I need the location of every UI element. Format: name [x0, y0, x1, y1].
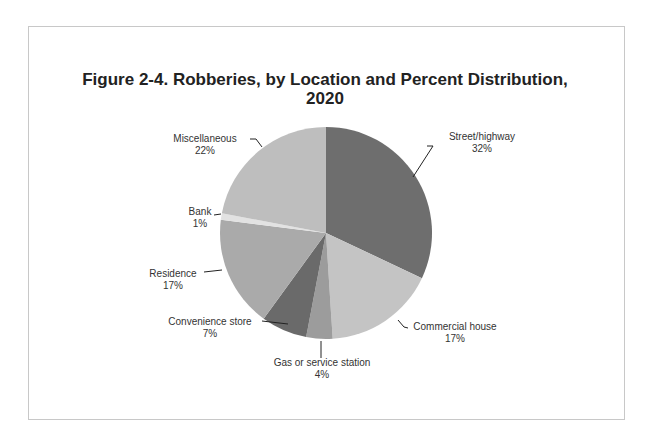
label-gas-station: Gas or service station4% — [262, 357, 382, 381]
label-street-highway: Street/highway32% — [437, 131, 527, 155]
label-convenience-store: Convenience store7% — [160, 316, 260, 340]
label-residence: Residence17% — [143, 268, 203, 292]
label-commercial-house: Commercial house17% — [400, 321, 510, 345]
leader-line — [413, 146, 433, 177]
label-miscellaneous: Miscellaneous22% — [160, 133, 250, 157]
leader-line — [204, 270, 222, 272]
leader-line — [250, 139, 262, 147]
label-bank: Bank1% — [180, 206, 220, 230]
